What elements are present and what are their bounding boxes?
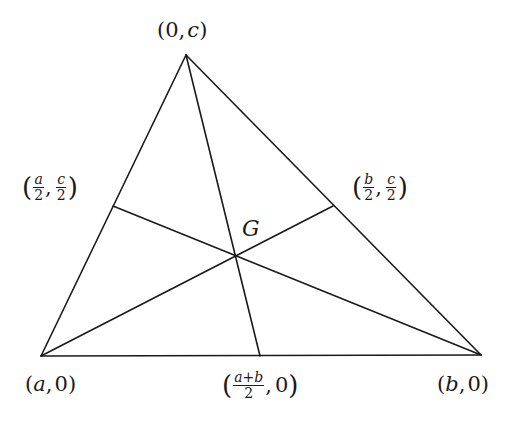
denominator: 2 [243,386,254,401]
coord-y: 0 [275,373,288,397]
separator: , [459,372,466,396]
numerator: a [33,172,43,188]
coord-x: b [445,372,458,396]
open-paren: ( [437,372,445,396]
label-centroid: G [242,218,260,240]
coord-y: 0 [55,372,68,396]
fraction-x: a+b2 [233,370,264,400]
close-paren: ) [481,372,489,396]
separator: , [375,175,382,199]
open-paren: ( [157,18,165,42]
median-from-bottom-left [41,206,333,356]
denominator: 2 [56,188,67,203]
denominator: 2 [363,188,374,203]
label-vertex-bottom-right: (b, 0) [437,374,489,395]
coord-x: a [33,372,46,396]
close-paren: ) [199,18,207,42]
close-paren: ) [288,370,298,400]
side-base [41,355,481,356]
numerator: c [56,172,66,188]
separator: , [45,175,52,199]
label-midpoint-right: (b2,c2) [352,172,408,202]
denominator: 2 [33,188,44,203]
fraction-x: a2 [33,172,44,202]
open-paren: ( [352,172,362,202]
separator: , [265,373,272,397]
fraction-x: b2 [363,172,374,202]
coord-y: 0 [467,372,480,396]
separator: , [179,18,186,42]
separator: , [46,372,53,396]
numerator: b [363,172,374,188]
triangle-medians-diagram [0,0,508,424]
open-paren: ( [22,172,32,202]
label-vertex-bottom-left: (a, 0) [25,374,76,395]
open-paren: ( [25,372,33,396]
numerator: c [386,172,396,188]
close-paren: ) [68,372,76,396]
median-from-bottom-right [113,206,481,355]
label-vertex-top: (0, c) [157,20,207,41]
fraction-y: c2 [386,172,397,202]
coord-y: c [187,18,199,42]
label-midpoint-bottom: (a+b2,0) [222,370,298,400]
denominator: 2 [386,188,397,203]
numerator: a+b [233,370,264,386]
median-from-top [186,55,260,356]
label-midpoint-left: (a2,c2) [22,172,78,202]
side-right [186,55,481,355]
coord-x: 0 [165,18,178,42]
fraction-y: c2 [56,172,67,202]
close-paren: ) [68,172,78,202]
open-paren: ( [222,370,232,400]
close-paren: ) [398,172,408,202]
